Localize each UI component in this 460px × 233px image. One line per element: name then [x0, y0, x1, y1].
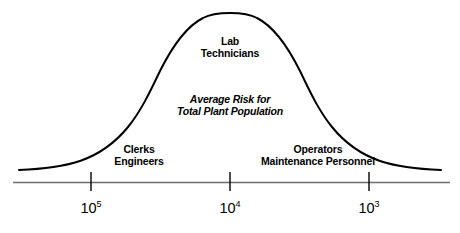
annotation-line: Average Risk for	[177, 93, 283, 105]
annotation-lab-technicians: Lab Technicians	[201, 35, 259, 60]
annotation-average-risk: Average Risk for Total Plant Population	[177, 93, 283, 118]
annotation-line: Technicians	[201, 47, 259, 59]
annotation-clerks-engineers: Clerks Engineers	[114, 143, 163, 168]
annotation-line: Total Plant Population	[177, 105, 283, 117]
annotation-line: Clerks	[114, 143, 163, 155]
annotation-line: Maintenance Personnel	[261, 155, 375, 167]
tick-label-base: 10	[359, 200, 375, 216]
x-axis-tick-label: 104	[220, 201, 241, 216]
bell-curve-figure: Lab Technicians Average Risk for Total P…	[0, 0, 460, 233]
annotation-line: Operators	[261, 143, 375, 155]
x-axis-tick-label: 105	[81, 201, 102, 216]
tick-label-base: 10	[81, 200, 97, 216]
annotation-operators-maintenance: Operators Maintenance Personnel	[261, 143, 375, 168]
tick-label-base: 10	[220, 200, 236, 216]
tick-label-exponent: 3	[374, 199, 379, 209]
annotation-line: Lab	[201, 35, 259, 47]
x-axis-tick-label: 103	[359, 201, 380, 216]
tick-label-exponent: 5	[96, 199, 101, 209]
tick-label-exponent: 4	[235, 199, 240, 209]
annotation-line: Engineers	[114, 155, 163, 167]
